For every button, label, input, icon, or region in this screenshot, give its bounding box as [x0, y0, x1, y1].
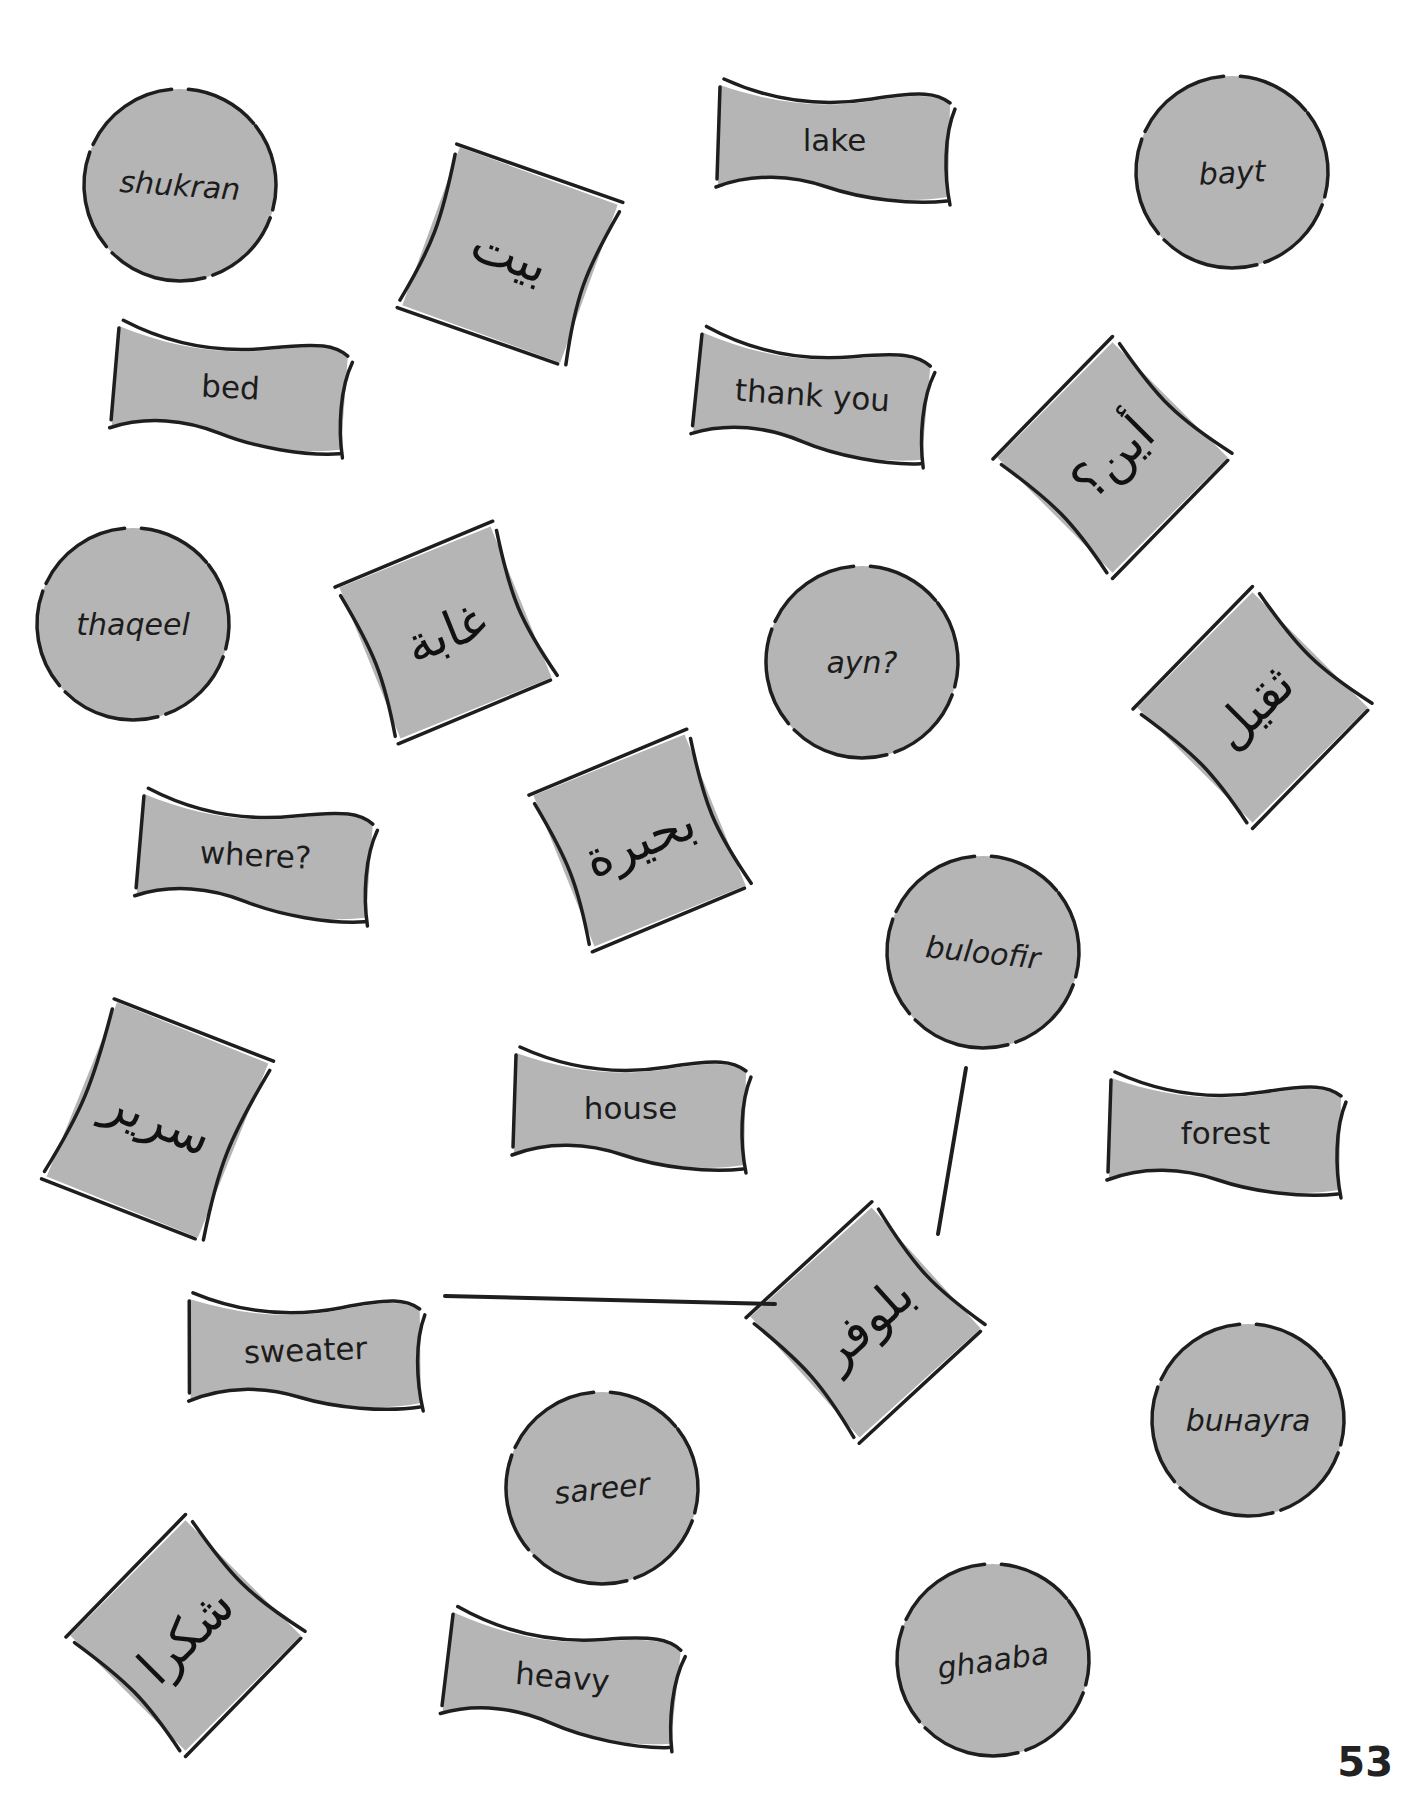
word-card-ghaaba-ar[interactable]: غابة [332, 519, 560, 747]
circle-shape [893, 1560, 1093, 1760]
word-card-house[interactable]: house [508, 1043, 753, 1173]
connector-line-sweater-to-buloofir-ar [445, 1296, 775, 1304]
word-card-bayt[interactable]: bayt [1132, 72, 1332, 272]
word-card-thaqeel[interactable]: thaqeel [33, 524, 233, 724]
circle-shape [1132, 72, 1332, 272]
square-shape [395, 140, 626, 371]
square-shape [332, 519, 560, 747]
square-shape [39, 995, 276, 1246]
flag-shape [712, 75, 957, 205]
word-card-shukran[interactable]: shukran [80, 85, 280, 285]
square-shape [1129, 584, 1376, 831]
circle-shape [1148, 1320, 1348, 1520]
flag-shape [181, 1281, 430, 1419]
square-shape [62, 1512, 309, 1759]
word-card-bayt-ar[interactable]: بيت [395, 140, 626, 371]
word-card-heavy[interactable]: heavy [435, 1602, 690, 1753]
word-card-bed[interactable]: bed [105, 316, 356, 459]
word-card-buloofir-ar[interactable]: بلوفر [742, 1199, 989, 1446]
word-card-sweater[interactable]: sweater [181, 1281, 430, 1419]
square-shape [526, 727, 754, 955]
word-card-forest[interactable]: forest [1103, 1068, 1348, 1198]
connector-line-buloofir-ar-to-buloofir [938, 1068, 966, 1234]
word-card-thaqeel-ar[interactable]: ثقيل [1129, 584, 1376, 831]
square-shape [989, 334, 1236, 581]
circle-shape [33, 524, 233, 724]
word-card-thank-you[interactable]: thank you [686, 322, 939, 469]
word-card-ghaaba[interactable]: ghaaba [893, 1560, 1093, 1760]
flag-shape [508, 1043, 753, 1173]
flag-shape [435, 1602, 690, 1753]
word-card-buhayra-ar[interactable]: بحيرة [526, 727, 754, 955]
word-card-sareer-ar[interactable]: سرير [39, 995, 276, 1246]
word-card-ayn-ar[interactable]: أين؟ [989, 334, 1236, 581]
word-card-buhayra[interactable]: buнayra [1148, 1320, 1348, 1520]
circle-shape [883, 852, 1083, 1052]
flag-shape [1103, 1068, 1348, 1198]
word-card-lake[interactable]: lake [712, 75, 957, 205]
word-card-shukran-ar[interactable]: شكرا [62, 1512, 309, 1759]
flag-shape [686, 322, 939, 469]
circle-shape [80, 85, 280, 285]
circle-shape [762, 562, 962, 762]
square-shape [742, 1199, 989, 1446]
page-number: 53 [1337, 1739, 1393, 1785]
flag-shape [130, 784, 381, 927]
word-card-buloofir[interactable]: buloofir [883, 852, 1083, 1052]
word-card-where[interactable]: where? [130, 784, 381, 927]
top-cropped-strip [0, 0, 1423, 8]
word-card-ayn[interactable]: ayn? [762, 562, 962, 762]
circle-shape [502, 1388, 702, 1588]
flag-shape [105, 316, 356, 459]
word-card-sareer[interactable]: sareer [502, 1388, 702, 1588]
